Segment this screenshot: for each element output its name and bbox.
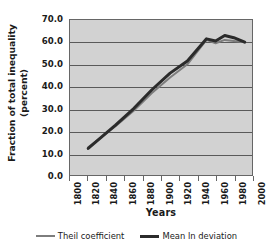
y-axis-title-line-1: Fraction of total inequality — [6, 24, 18, 161]
x-axis-tick-label: 1980 — [238, 182, 248, 205]
plot-area — [69, 19, 253, 176]
y-axis-tick-label: 60.0 — [42, 36, 63, 46]
legend-label-mean-ln-deviation: Mean ln deviation — [162, 231, 237, 241]
x-axis-tick-label: 1820 — [91, 182, 101, 205]
x-axis-tick-mark — [87, 176, 88, 181]
x-axis-tick-label: 1840 — [109, 182, 119, 205]
y-axis-tick-label: 50.0 — [42, 59, 63, 69]
legend-item-mean-ln-deviation[interactable]: Mean ln deviation — [140, 231, 237, 241]
series-line — [88, 40, 245, 147]
x-axis-tick-mark — [179, 176, 180, 181]
legend-line-swatch-theil-coefficient — [36, 235, 55, 237]
x-axis-tick-mark — [106, 176, 107, 181]
x-axis-tick-label: 1920 — [183, 182, 193, 205]
x-axis-tick-mark — [69, 176, 70, 181]
y-axis-tick-label: 20.0 — [42, 126, 63, 136]
x-axis-tick-mark — [124, 176, 125, 181]
x-axis-tick-label: 1940 — [201, 182, 211, 205]
y-axis-tick-label: 70.0 — [42, 14, 63, 24]
legend-label-theil-coefficient: Theil coefficient — [58, 231, 125, 241]
series-lines — [70, 20, 252, 175]
x-axis-tick-label: 1960 — [220, 182, 230, 205]
x-axis-tick-mark — [253, 176, 254, 181]
y-axis-tick-label: 0.0 — [48, 171, 63, 181]
y-axis-tick-label: 30.0 — [42, 104, 63, 114]
x-axis-tick-label: 1880 — [146, 182, 156, 205]
x-axis-tick-label: 1860 — [128, 182, 138, 205]
x-axis-tick-label: 1900 — [165, 182, 175, 205]
x-axis-tick-mark — [161, 176, 162, 181]
chart-legend: Theil coefficient Mean ln deviation — [0, 228, 273, 244]
x-axis-title: Years — [69, 207, 253, 218]
legend-item-theil-coefficient[interactable]: Theil coefficient — [36, 231, 125, 241]
x-axis-tick-label: 2000 — [257, 182, 267, 205]
x-axis-tick-mark — [143, 176, 144, 181]
x-axis-tick-labels: 1800182018401860188019001920194019601980… — [69, 182, 253, 208]
y-axis-tick-labels: 0.010.020.030.040.050.060.070.0 — [30, 13, 66, 179]
series-line — [88, 36, 245, 149]
chart-figure: Fraction of total inequality (percent) 0… — [0, 0, 273, 248]
x-axis-tick-mark — [216, 176, 217, 181]
x-axis-tick-mark — [198, 176, 199, 181]
x-axis-tick-mark — [235, 176, 236, 181]
y-axis-tick-label: 10.0 — [42, 149, 63, 159]
y-axis-title-line-2: (percent) — [17, 24, 29, 161]
legend-line-swatch-mean-ln-deviation — [140, 235, 159, 238]
y-axis-tick-label: 40.0 — [42, 81, 63, 91]
x-axis-tick-label: 1800 — [73, 182, 83, 205]
y-axis-title: Fraction of total inequality (percent) — [0, 0, 34, 186]
y-axis-title-text: Fraction of total inequality (percent) — [6, 24, 29, 161]
